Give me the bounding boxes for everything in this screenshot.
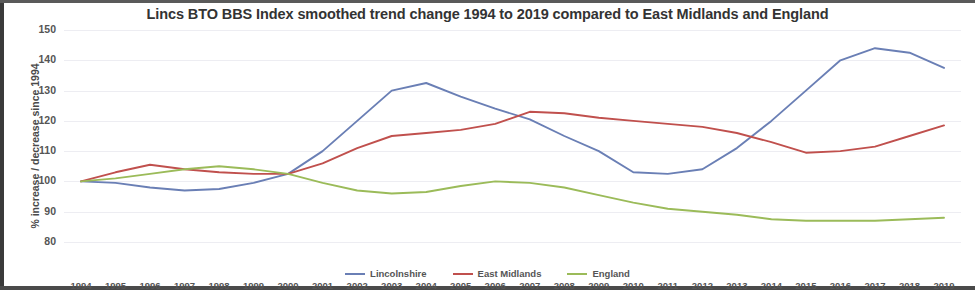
x-axis-tick-label: 2019 (922, 280, 966, 290)
y-axis-tick-label: 150 (16, 23, 56, 35)
y-axis-tick-label: 100 (16, 174, 56, 186)
series-line-england (81, 166, 944, 221)
legend-swatch-icon (453, 273, 473, 275)
legend-item-label: Lincolnshire (370, 268, 426, 279)
legend-item[interactable]: England (567, 268, 629, 279)
plot-area: 8090100110120130140150 19941995199619971… (64, 30, 961, 242)
y-axis-tick-label: 140 (16, 53, 56, 65)
legend-item-label: East Midlands (478, 268, 542, 279)
series-lines (64, 30, 961, 242)
legend-swatch-icon (345, 273, 365, 275)
page-top-border (0, 0, 975, 3)
series-line-east-midlands (81, 112, 944, 182)
chart-legend: LincolnshireEast MidlandsEngland (0, 268, 975, 279)
chart-page: Lincs BTO BBS Index smoothed trend chang… (0, 0, 975, 290)
legend-item-label: England (592, 268, 629, 279)
y-axis-tick-label: 110 (16, 144, 56, 156)
gridline (64, 242, 961, 243)
chart-title: Lincs BTO BBS Index smoothed trend chang… (0, 6, 975, 22)
y-axis-tick-label: 120 (16, 114, 56, 126)
page-left-border (0, 0, 4, 290)
y-axis-tick-label: 80 (16, 235, 56, 247)
legend-swatch-icon (567, 273, 587, 275)
y-axis-tick-label: 90 (16, 205, 56, 217)
series-line-lincolnshire (81, 48, 944, 190)
y-axis-tick-label: 130 (16, 84, 56, 96)
legend-item[interactable]: Lincolnshire (345, 268, 426, 279)
legend-item[interactable]: East Midlands (453, 268, 542, 279)
